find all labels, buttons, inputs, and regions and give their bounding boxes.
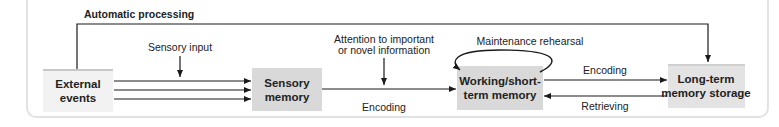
encoding-label-2: Encoding (583, 64, 627, 76)
edge-encoding-working-longterm: Encoding (544, 64, 667, 80)
long-term-memory-label-1: Long-term (678, 73, 735, 85)
external-events-label-1: External (55, 78, 100, 90)
edge-attention: Attention to important or novel informat… (334, 33, 434, 85)
retrieving-label: Retrieving (581, 100, 628, 112)
working-memory-label-2: term memory (464, 89, 537, 101)
working-memory-label-1: Working/short- (459, 75, 541, 87)
maintenance-rehearsal-label: Maintenance rehearsal (477, 35, 584, 47)
long-term-memory-label-2: memory storage (661, 87, 750, 99)
edge-retrieving: Retrieving (544, 96, 667, 112)
automatic-processing-label: Automatic processing (84, 8, 194, 20)
node-long-term-memory: Long-term memory storage (661, 64, 750, 108)
edge-external-to-sensory (114, 81, 251, 99)
external-events-label-2: events (60, 92, 96, 104)
edge-encoding-sensory-working: Encoding (322, 89, 456, 113)
sensory-memory-label-1: Sensory (264, 77, 310, 89)
encoding-label-1: Encoding (362, 101, 406, 113)
node-external-events: External events (43, 69, 113, 112)
sensory-memory-label-2: memory (265, 91, 310, 103)
attention-label-2: or novel information (338, 44, 430, 56)
node-sensory-memory: Sensory memory (252, 68, 322, 111)
node-working-memory: Working/short- term memory (457, 66, 543, 110)
memory-model-diagram: External events Sensory memory Working/s… (0, 0, 779, 127)
edge-sensory-input: Sensory input (148, 41, 212, 77)
sensory-input-label: Sensory input (148, 41, 212, 53)
